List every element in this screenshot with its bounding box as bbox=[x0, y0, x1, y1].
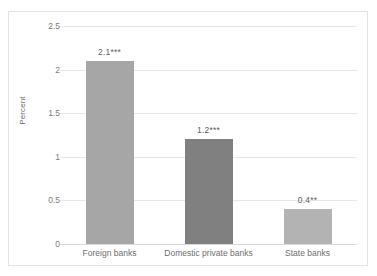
bar-chart-figure: Percent 00.511.522.5 2.1***1.2***0.4** F… bbox=[8, 11, 368, 266]
bar-value-label: 2.1*** bbox=[98, 47, 121, 57]
bar[interactable] bbox=[284, 209, 332, 244]
y-axis-tick-label: 0 bbox=[26, 239, 60, 249]
y-axis-tick-label: 2.5 bbox=[26, 21, 60, 31]
y-axis-tick-label: 1 bbox=[26, 152, 60, 162]
bar-value-label: 1.2*** bbox=[197, 125, 220, 135]
y-axis-tick-label: 0.5 bbox=[26, 195, 60, 205]
x-axis-category-label: State banks bbox=[285, 248, 330, 258]
x-axis-category-labels: Foreign banksDomestic private banksState… bbox=[60, 248, 357, 268]
bar-group[interactable]: 2.1*** bbox=[60, 26, 159, 244]
bar-group[interactable]: 0.4** bbox=[258, 26, 357, 244]
y-axis-tick-labels: 00.511.522.5 bbox=[9, 12, 60, 265]
bar-value-label: 0.4** bbox=[298, 195, 317, 205]
bar[interactable] bbox=[86, 61, 134, 244]
y-axis-tick-label: 2 bbox=[26, 65, 60, 75]
bars-layer: 2.1***1.2***0.4** bbox=[60, 26, 357, 244]
x-axis-category-label: Domestic private banks bbox=[164, 248, 252, 258]
y-axis-tick-label: 1.5 bbox=[26, 108, 60, 118]
plot-area: 2.1***1.2***0.4** bbox=[60, 26, 357, 244]
bar[interactable] bbox=[185, 139, 233, 244]
bar-group[interactable]: 1.2*** bbox=[159, 26, 258, 244]
x-axis-category-label: Foreign banks bbox=[83, 248, 137, 258]
axis-baseline bbox=[60, 244, 357, 245]
